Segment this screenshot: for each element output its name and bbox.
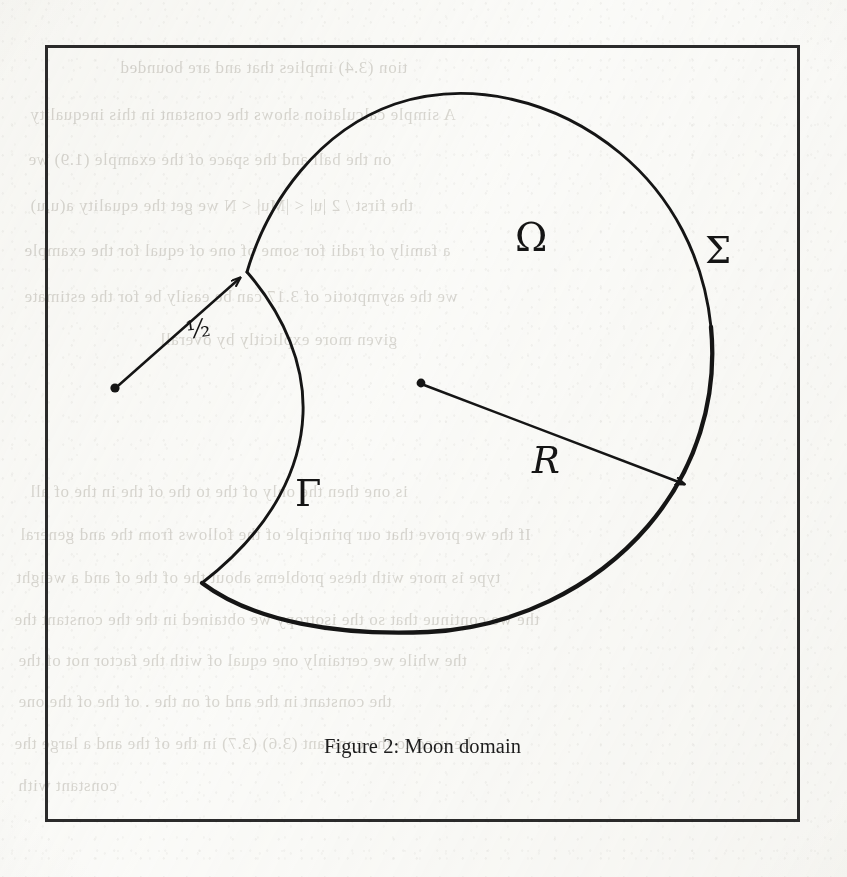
figure-frame (45, 45, 800, 822)
label-radius-half: ½ (184, 315, 211, 343)
figure-caption-label: Figure 2: (324, 735, 400, 757)
scanned-page: tion (3.4) implies that and are boundedA… (0, 0, 847, 877)
label-gamma: Γ (295, 474, 321, 512)
figure-caption-text: Moon domain (404, 735, 521, 757)
label-radius-r: R (532, 442, 560, 479)
label-sigma: Σ (705, 232, 731, 269)
figure-caption: Figure 2:Moon domain (45, 735, 800, 758)
label-omega: Ω (515, 218, 547, 257)
